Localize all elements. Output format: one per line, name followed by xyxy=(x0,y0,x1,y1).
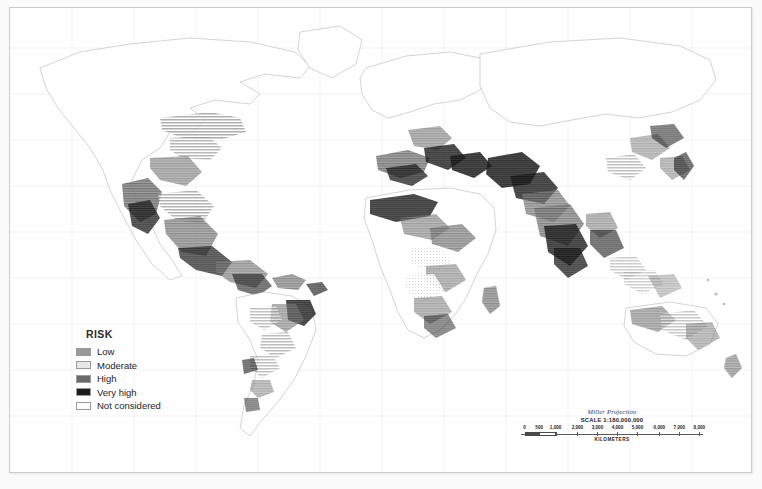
map-sheet: RISK Low Moderate High Very high Not con… xyxy=(0,0,762,489)
legend-swatch-high xyxy=(76,375,91,383)
map-frame: RISK Low Moderate High Very high Not con… xyxy=(9,7,752,473)
legend-swatch-moderate xyxy=(76,361,91,369)
scalebar-tick-mark-1000 xyxy=(556,432,557,436)
legend-item-low[interactable]: Low xyxy=(76,345,206,358)
legend-swatch-very-high xyxy=(76,388,91,396)
scalebar-tick-mark-7000 xyxy=(679,432,680,436)
scale-block: Miller Projection SCALE 1:180,000,000 0 … xyxy=(507,408,717,442)
scalebar xyxy=(521,432,703,436)
scalebar-segment-1 xyxy=(525,432,540,436)
legend-label-not-considered: Not considered xyxy=(97,400,161,411)
scalebar-tick-mark-5000 xyxy=(637,432,638,436)
scalebar-tick-6000: 6,000 xyxy=(654,425,666,430)
scalebar-tick-mark-2000 xyxy=(577,432,578,436)
scalebar-tick-mark-3000 xyxy=(597,432,598,436)
projection-label: Miller Projection xyxy=(507,408,717,415)
scalebar-tick-3000: 3,000 xyxy=(592,425,604,430)
legend-swatch-not-considered xyxy=(76,402,91,410)
legend-label-moderate: Moderate xyxy=(97,360,137,371)
scalebar-tick-7000: 7,000 xyxy=(674,425,686,430)
legend-item-high[interactable]: High xyxy=(76,372,206,385)
legend-label-high: High xyxy=(97,373,117,384)
scale-ratio-label: SCALE 1:180,000,000 xyxy=(507,417,717,423)
scalebar-tick-mark-8000 xyxy=(699,432,700,436)
scalebar-tick-2000: 2,000 xyxy=(572,425,584,430)
scalebar-tick-1000: 1,000 xyxy=(550,425,562,430)
scalebar-segment-2 xyxy=(539,432,555,436)
scalebar-tick-500: 500 xyxy=(535,425,543,430)
legend-item-moderate[interactable]: Moderate xyxy=(76,359,206,372)
scalebar-tick-mark-6000 xyxy=(659,432,660,436)
scalebar-tick-5000: 5,000 xyxy=(632,425,644,430)
legend-swatch-low xyxy=(76,348,91,356)
legend-item-very-high[interactable]: Very high xyxy=(76,386,206,399)
scalebar-tick-mark-4000 xyxy=(617,432,618,436)
distance-unit-label: KILOMETERS xyxy=(507,437,717,442)
scalebar-tick-4000: 4,000 xyxy=(612,425,624,430)
legend-item-not-considered[interactable]: Not considered xyxy=(76,399,206,412)
scalebar-tick-8000: 8,000 xyxy=(694,425,706,430)
legend-label-low: Low xyxy=(97,346,114,357)
legend-label-very-high: Very high xyxy=(97,387,137,398)
scalebar-tick-0: 0 xyxy=(523,425,526,430)
scalebar-tick-labels: 0 500 1,000 2,000 3,000 4,000 5,000 6,00… xyxy=(521,425,703,432)
legend: RISK Low Moderate High Very high Not con… xyxy=(76,328,206,413)
legend-title: RISK xyxy=(86,328,206,340)
